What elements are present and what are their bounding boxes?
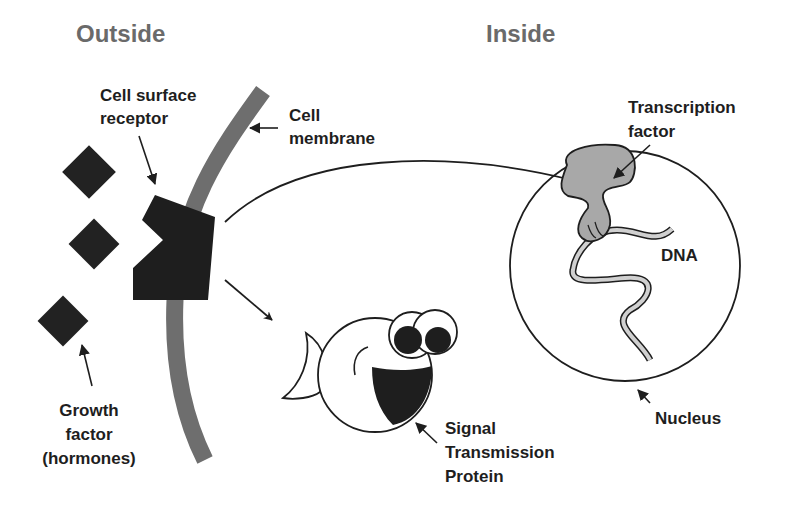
signal-path-to-protein-arrow <box>225 280 272 320</box>
label-cell-membrane-line2: membrane <box>289 129 375 148</box>
header-outside: Outside <box>76 20 165 47</box>
signal-path-to-transcription-factor <box>225 161 572 222</box>
label-signal-protein-line2: Transmission <box>445 443 555 462</box>
protein-pupil-right <box>425 327 451 353</box>
label-transcription-factor-line2: factor <box>628 122 676 141</box>
label-growth-factor-line1: Growth <box>59 401 119 420</box>
growth-factor-diamond <box>62 145 116 199</box>
header-inside: Inside <box>486 20 555 47</box>
label-growth-factor-line3: (hormones) <box>42 449 136 468</box>
transcription-factor <box>561 145 635 241</box>
growth-factor-pointer-arrow <box>82 345 92 386</box>
receptor-pointer-arrow <box>139 136 155 184</box>
label-transcription-factor-line1: Transcription <box>628 98 736 117</box>
nucleus-pointer-arrow <box>638 390 650 403</box>
label-cell-surface-receptor-line2: receptor <box>100 109 168 128</box>
label-signal-protein-line3: Protein <box>445 467 504 486</box>
cell-signaling-diagram: Outside Inside Cell surface receptor Cel… <box>0 0 800 509</box>
label-dna: DNA <box>661 246 698 265</box>
signal-transmission-protein <box>283 310 457 432</box>
cell-surface-receptor <box>133 195 215 300</box>
label-cell-membrane-line1: Cell <box>289 106 320 125</box>
label-nucleus: Nucleus <box>655 409 721 428</box>
dna-strand <box>573 229 672 360</box>
growth-factor-diamond <box>69 219 120 270</box>
label-growth-factor-line2: factor <box>65 425 113 444</box>
growth-factor-diamond <box>38 296 89 347</box>
label-cell-surface-receptor-line1: Cell surface <box>100 86 196 105</box>
protein-pointer-arrow <box>416 423 437 443</box>
label-signal-protein-line1: Signal <box>445 419 496 438</box>
protein-pupil-left <box>394 326 422 354</box>
